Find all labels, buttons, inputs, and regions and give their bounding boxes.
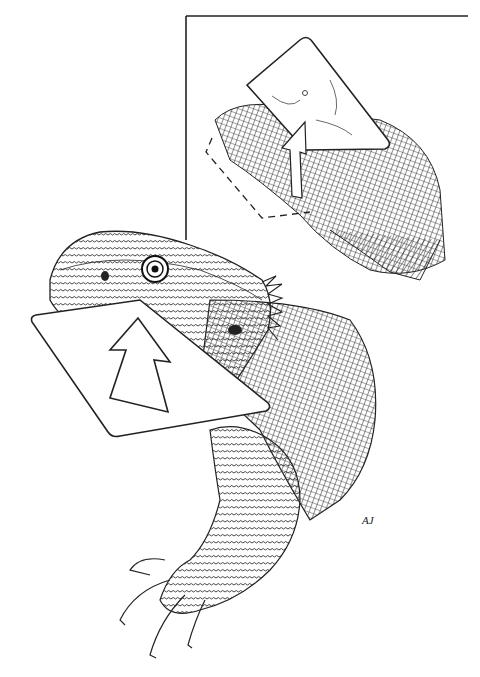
dragon — [50, 231, 376, 658]
inset-panel — [186, 16, 468, 280]
illustration: AJ — [0, 0, 480, 677]
caption — [0, 664, 480, 677]
signature: AJ — [361, 514, 375, 526]
